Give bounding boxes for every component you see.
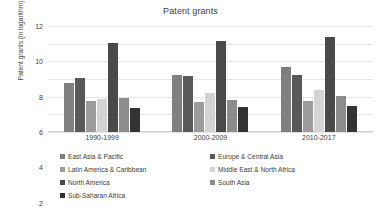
legend-item[interactable]: Middle East & North Africa [210,164,360,175]
y-tick-label: 10 [35,58,43,65]
chart-legend: East Asia & PacificEurope & Central Asia… [60,151,360,201]
bar-group [48,26,156,132]
bar [75,78,85,132]
y-tick-label: 12 [35,23,43,30]
bar [183,76,193,132]
legend-label: Sub-Saharan Africa [68,192,125,199]
bar [347,106,357,133]
bar [336,96,346,132]
legend-label: Middle East & North Africa [218,166,295,173]
legend-item[interactable]: North America [60,177,210,188]
legend-swatch-icon [60,180,65,185]
x-axis-label: 2000-2009 [156,134,264,141]
legend-swatch-icon [60,193,65,198]
x-axis-labels: 1990-19992000-20092010-2017 [48,134,373,141]
legend-item[interactable]: Latin America & Caribbean [60,164,210,175]
bar-group [156,26,264,132]
legend-item[interactable]: Europe & Central Asia [210,151,360,162]
legend-item[interactable]: Sub-Saharan Africa [60,190,210,201]
bar [119,98,129,132]
legend-label: East Asia & Pacific [68,153,123,160]
legend-swatch-icon [210,154,215,159]
legend-label: Latin America & Caribbean [68,166,146,173]
bar [292,75,302,132]
legend-item[interactable]: East Asia & Pacific [60,151,210,162]
bar [303,101,313,132]
plot-area: 024681012 [48,26,373,132]
bar [172,75,182,132]
chart-title: Patent grants [0,6,381,16]
x-axis-label: 1990-1999 [48,134,156,141]
legend-item[interactable]: South Asia [210,177,360,188]
bar [205,93,215,132]
bar [108,43,118,132]
chart-container: Patent grants Patent grants (in logarith… [0,0,381,210]
legend-swatch-icon [210,180,215,185]
gridline-0: 0 [48,132,373,133]
bar-groups [48,26,373,132]
legend-label: North America [68,179,110,186]
legend-label: South Asia [218,179,250,186]
bar-group [265,26,373,132]
bar [314,90,324,132]
bar [130,108,140,132]
y-tick-label: 8 [39,93,43,100]
y-axis-title: Patent grants (in logarithm) [17,0,24,101]
legend-label: Europe & Central Asia [218,153,283,160]
bar [86,101,96,132]
legend-swatch-icon [60,167,65,172]
legend-swatch-icon [60,154,65,159]
y-tick-label: 6 [39,129,43,136]
bar [194,102,204,132]
x-axis-label: 2010-2017 [265,134,373,141]
y-tick-label: 4 [39,164,43,171]
legend-swatch-icon [210,167,215,172]
bar [325,37,335,132]
bar [227,100,237,132]
bar [97,99,107,132]
bar [238,107,248,132]
bar [216,41,226,132]
y-tick-label: 2 [39,199,43,206]
bar [281,67,291,132]
bar [64,83,74,132]
